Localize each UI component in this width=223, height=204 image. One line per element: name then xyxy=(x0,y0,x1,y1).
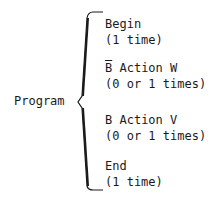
item-count: (1 time) xyxy=(105,32,163,48)
item-count: (0 or 1 times) xyxy=(105,76,206,92)
item-label: Action W xyxy=(112,61,177,75)
item-label: Action V xyxy=(112,113,177,127)
root-label: Program xyxy=(14,94,65,108)
item-action-w: B Action W (0 or 1 times) xyxy=(105,60,206,92)
item-action-v: B Action V (0 or 1 times) xyxy=(105,112,206,144)
item-label: Begin xyxy=(105,16,163,32)
item-begin: Begin (1 time) xyxy=(105,16,163,48)
item-end: End (1 time) xyxy=(105,158,163,190)
curly-brace-icon xyxy=(76,10,106,192)
item-label: End xyxy=(105,158,163,174)
item-count: (1 time) xyxy=(105,174,163,190)
item-count: (0 or 1 times) xyxy=(105,128,206,144)
